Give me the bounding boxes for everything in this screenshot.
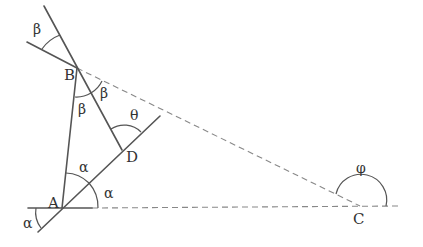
geometry-diagram: B A D C β β β θ α α α φ [0, 0, 423, 247]
arc-alpha-a-right [89, 183, 98, 208]
arc-beta-b-inner [75, 93, 91, 97]
label-beta-b-inner: β [78, 101, 86, 117]
label-phi-c: φ [356, 160, 366, 176]
label-alpha-bottom-left: α [23, 215, 33, 231]
line-top-left-to-b [27, 42, 77, 68]
label-point-d: D [126, 148, 138, 166]
arc-alpha-bottom-left [36, 208, 41, 228]
label-beta-top: β [33, 21, 41, 37]
label-theta-d: θ [130, 107, 138, 123]
label-alpha-a-right: α [104, 185, 114, 201]
line-bd-extended [44, 6, 122, 150]
segment-ab [62, 68, 77, 208]
label-point-b: B [64, 66, 75, 84]
line-ad-extended [38, 116, 160, 232]
label-point-a: A [47, 194, 59, 212]
dashed-line-bc [77, 68, 360, 206]
label-point-c: C [353, 210, 364, 228]
arc-theta-d [111, 125, 141, 132]
dashed-line-ac [92, 206, 402, 208]
label-alpha-a-inner: α [79, 159, 89, 175]
label-beta-b-right: β [100, 85, 108, 101]
arc-phi-c [336, 174, 387, 206]
arc-beta-top [42, 35, 60, 49]
